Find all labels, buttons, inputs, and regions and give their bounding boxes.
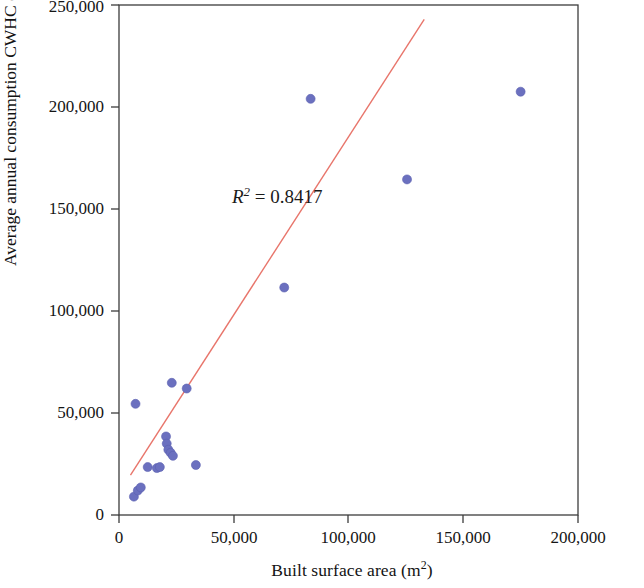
y-axis-title: Average annual consumption CWHC (m3) bbox=[0, 0, 21, 266]
y-axis-title-text: Average annual consumption CWHC (m bbox=[0, 0, 20, 266]
scatter-point bbox=[403, 175, 412, 184]
x-axis-title: Built surface area (m2) bbox=[0, 560, 644, 581]
y-tick-label-0: 0 bbox=[0, 505, 104, 525]
x-tick-label-200000: 200,000 bbox=[550, 528, 605, 548]
scatter-point bbox=[306, 94, 315, 103]
x-axis-ticks bbox=[119, 515, 578, 523]
scatter-point bbox=[131, 399, 140, 408]
scatter-point bbox=[136, 483, 145, 492]
x-tick-label-50000: 50,000 bbox=[211, 528, 258, 548]
scatter-point bbox=[167, 378, 176, 387]
y-axis-ticks bbox=[111, 5, 119, 515]
r-squared-annotation: R2 = 0.8417 bbox=[232, 186, 323, 208]
x-tick-label-150000: 150,000 bbox=[435, 528, 490, 548]
scatter-point bbox=[182, 384, 191, 393]
plot-canvas bbox=[0, 0, 644, 588]
plot-frame-box bbox=[119, 5, 578, 515]
scatter-point bbox=[191, 461, 200, 470]
axes-frame bbox=[119, 5, 578, 515]
x-axis-title-tail: ) bbox=[427, 560, 433, 580]
r-squared-equals: = bbox=[250, 186, 270, 207]
x-tick-label-0: 0 bbox=[115, 528, 124, 548]
r-squared-symbol: R bbox=[232, 186, 244, 207]
scatter-point bbox=[516, 87, 525, 96]
r-squared-value: 0.8417 bbox=[270, 186, 322, 207]
scatter-chart-figure: 0 50,000 100,000 150,000 200,000 250,000… bbox=[0, 0, 644, 588]
x-axis-title-text: Built surface area (m bbox=[271, 560, 420, 580]
scatter-point bbox=[155, 463, 164, 472]
trendline bbox=[130, 19, 424, 475]
y-tick-label-50000: 50,000 bbox=[0, 403, 104, 423]
scatter-point bbox=[168, 451, 177, 460]
trendline-path bbox=[130, 19, 424, 475]
scatter-point bbox=[143, 463, 152, 472]
scatter-points bbox=[129, 87, 525, 501]
x-tick-label-100000: 100,000 bbox=[320, 528, 375, 548]
y-tick-label-100000: 100,000 bbox=[0, 301, 104, 321]
scatter-point bbox=[280, 283, 289, 292]
